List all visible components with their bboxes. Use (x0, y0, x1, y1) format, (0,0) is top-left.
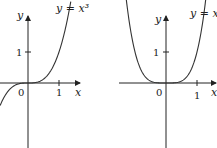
origin-label: 0 (18, 87, 24, 98)
y-tick-label: 1 (153, 47, 159, 58)
y-axis-label: y (16, 9, 24, 22)
y-tick-label: 1 (16, 47, 22, 58)
y-axis-label: y (154, 13, 162, 26)
x-axis-label: x (211, 86, 217, 99)
cubic-plot: y x 0 1 1 y = x³ (0, 2, 89, 148)
x-tick-label: 1 (194, 90, 200, 101)
cubic-title: y = x³ (55, 2, 89, 15)
quartic-title: y = x⁴ (189, 7, 217, 20)
quartic-plot: y x 0 1 1 y = x⁴ (119, 0, 217, 148)
figure: y x 0 1 1 y = x³ y x 0 1 1 y = x⁴ (0, 0, 217, 148)
x-axis-label: x (75, 86, 82, 99)
x-tick-label: 1 (56, 87, 62, 98)
origin-label: 0 (156, 87, 162, 98)
